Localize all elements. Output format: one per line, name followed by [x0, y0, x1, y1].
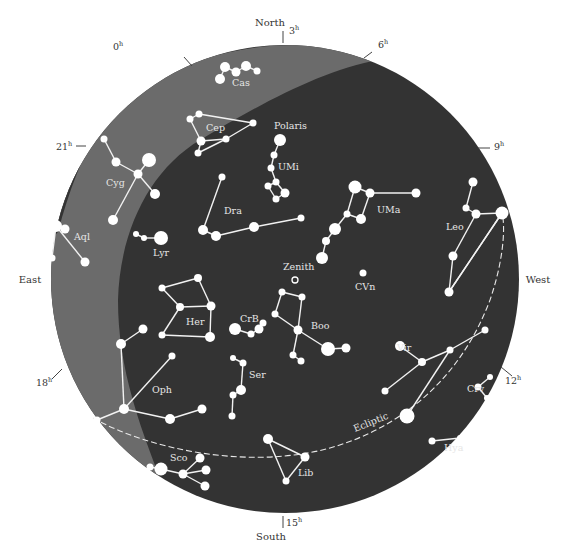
hour-label: 0h	[113, 40, 123, 52]
constellation-label: Leo	[446, 221, 464, 232]
star	[400, 409, 415, 424]
zenith-label: Zenith	[283, 261, 314, 272]
star	[230, 392, 237, 399]
star	[196, 454, 205, 463]
hour-tick	[184, 57, 192, 66]
constellation-label: UMi	[278, 161, 299, 172]
star	[101, 136, 108, 143]
star	[366, 189, 375, 198]
star	[202, 466, 211, 475]
constellation-label: Lib	[298, 467, 313, 478]
star	[482, 327, 489, 334]
hour-label: 3h	[289, 24, 299, 36]
star-chart: CasCepPolarisUMiDraUMaCVnLeoCygAqlLyrHer…	[0, 0, 564, 554]
star	[141, 235, 147, 241]
star	[412, 189, 421, 198]
star	[198, 405, 207, 414]
star	[329, 223, 341, 235]
star	[229, 413, 236, 420]
star	[205, 332, 215, 342]
star	[469, 178, 478, 187]
hour-tick	[52, 369, 62, 379]
star	[298, 215, 305, 222]
constellation-label: Hya	[444, 442, 464, 453]
star	[273, 179, 280, 186]
hour-label: 9h	[494, 140, 504, 152]
constellation-label: Dra	[224, 205, 242, 216]
star	[342, 344, 351, 353]
hour-label: 15h	[286, 516, 302, 528]
hour-label: 18h	[36, 376, 52, 388]
star	[274, 134, 286, 146]
star	[248, 331, 255, 338]
star	[108, 215, 118, 225]
star	[260, 320, 267, 327]
star	[382, 388, 389, 395]
star	[142, 153, 156, 167]
star	[360, 270, 367, 277]
star	[273, 196, 280, 203]
star	[322, 237, 330, 245]
star	[176, 303, 184, 311]
star	[496, 207, 509, 220]
star	[207, 302, 216, 311]
star	[220, 62, 230, 72]
constellation-label: Sco	[170, 452, 188, 463]
star	[165, 414, 175, 424]
star	[445, 288, 454, 297]
star	[268, 165, 275, 172]
star	[250, 120, 257, 127]
constellation-label: Cyg	[106, 177, 125, 188]
direction-east: East	[19, 274, 41, 285]
constellation-label: CVn	[355, 281, 375, 292]
star	[155, 463, 168, 476]
direction-west: West	[526, 274, 551, 285]
constellation-label: Lyr	[153, 247, 170, 258]
constellation-label: Oph	[152, 384, 172, 395]
hour-label: 12h	[505, 374, 521, 386]
star	[133, 231, 139, 237]
star	[150, 189, 160, 199]
constellation-label: Cas	[232, 77, 250, 88]
star	[201, 482, 210, 491]
hour-label: 21h	[56, 140, 72, 152]
star	[263, 434, 273, 444]
star	[179, 470, 188, 479]
star	[159, 285, 166, 292]
star	[283, 478, 290, 485]
hour-tick	[364, 52, 372, 58]
star	[94, 417, 101, 424]
star	[49, 255, 56, 262]
star	[241, 61, 251, 71]
star	[429, 438, 436, 445]
constellation-label: CrB	[240, 313, 259, 324]
star	[298, 358, 305, 365]
star	[187, 116, 194, 123]
star	[472, 210, 481, 219]
star	[159, 332, 166, 339]
direction-south: South	[256, 531, 286, 542]
star	[232, 68, 241, 77]
hour-label: 6h	[378, 38, 388, 50]
star	[449, 252, 458, 261]
star	[463, 205, 470, 212]
star	[147, 464, 154, 471]
star	[196, 111, 203, 118]
star	[211, 231, 221, 241]
star	[194, 274, 202, 282]
star	[240, 360, 247, 367]
star	[169, 353, 176, 360]
star	[195, 150, 202, 157]
star	[271, 152, 278, 159]
constellation-label: Cep	[206, 122, 225, 133]
star	[230, 355, 236, 361]
star	[294, 326, 303, 335]
star	[215, 74, 225, 84]
star	[344, 211, 351, 218]
star	[265, 183, 272, 190]
star	[50, 220, 62, 232]
star	[316, 252, 328, 264]
star	[112, 158, 121, 167]
star	[321, 342, 335, 356]
star	[197, 137, 206, 146]
